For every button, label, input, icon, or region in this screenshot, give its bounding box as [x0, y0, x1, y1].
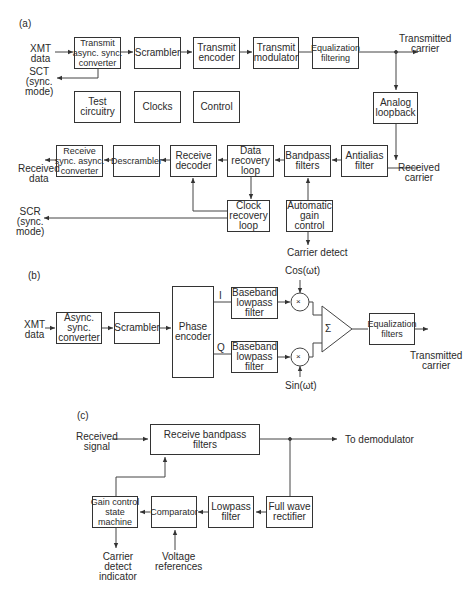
data-recovery-loop-block: Data recovery loop: [227, 145, 274, 177]
scr-label: SCR (sync. mode): [16, 207, 44, 237]
baseband-lowpass-filter-i-block: Baseband lowpass filter: [231, 287, 278, 319]
async-sync-converter-block: Async. sync. converter: [56, 312, 102, 344]
scrambler-block: Scrambler: [134, 37, 181, 69]
multiplier-q-icon: ×: [296, 352, 301, 362]
baseband-lowpass-filter-q-block: Baseband lowpass filter: [231, 341, 278, 373]
clock-recovery-loop-block: Clock recovery loop: [227, 200, 270, 232]
scrambler-block-b: Scrambler: [114, 312, 160, 344]
receive-decoder-block: Receive decoder: [170, 145, 217, 177]
lowpass-filter-block: Lowpass filter: [208, 496, 254, 528]
cos-label: Cos(ωt): [285, 266, 320, 276]
receive-bandpass-filters-block: Receive bandpass filters: [150, 424, 260, 455]
antialias-filter-block: Antialias filter: [341, 145, 388, 177]
sin-label: Sin(ωt): [285, 381, 317, 391]
to-demodulator-label: To demodulator: [345, 435, 414, 445]
test-circuitry-block: Test circuitry: [74, 91, 121, 123]
xmt-data-label-b: XMT data: [24, 320, 45, 340]
q-label: Q: [217, 343, 225, 353]
control-block: Control: [193, 91, 240, 123]
bandpass-filters-block: Bandpass filters: [284, 145, 331, 177]
receive-sync-async-converter-block: Receive sync. async. converter: [56, 145, 103, 177]
section-b-label: (b): [28, 270, 40, 281]
transmit-encoder-block: Transmit encoder: [193, 37, 240, 69]
section-a-label: (a): [19, 18, 31, 29]
comparator-block: Comparator: [151, 496, 197, 528]
phase-encoder-block: Phase encoder: [172, 286, 214, 378]
transmit-async-sync-converter-block: Transmit async. sync. converter: [74, 37, 121, 69]
multiplier-i-icon: ×: [296, 297, 301, 307]
carrier-detect-label: Carrier detect: [287, 248, 348, 258]
section-c-label: (c): [77, 410, 89, 421]
summer-icon: Σ: [325, 324, 331, 334]
analog-loopback-block: Analog loopback: [373, 92, 418, 124]
equalization-filters-block: Equalization filters: [369, 313, 415, 345]
transmitted-carrier-label-b: Transmitted carrier: [410, 351, 462, 371]
received-carrier-label: Received carrier: [398, 163, 440, 183]
sct-label: SCT (sync. mode): [25, 67, 53, 97]
carrier-detect-indicator-label: Carrier detect indicator: [99, 552, 137, 582]
xmt-data-label: XMT data: [30, 44, 51, 64]
clocks-block: Clocks: [134, 91, 181, 123]
equalization-filtering-block: Equalization filtering: [312, 37, 359, 69]
transmitted-carrier-label: Transmitted carrier: [399, 34, 451, 54]
received-signal-label: Received signal: [76, 432, 118, 452]
full-wave-rectifier-block: Full wave rectifier: [266, 496, 313, 528]
voltage-references-label: Voltage references: [155, 552, 202, 572]
automatic-gain-control-block: Automatic gain control: [286, 200, 333, 232]
gain-control-state-machine-block: Gain control state machine: [92, 496, 138, 528]
received-data-label: Received data: [18, 164, 60, 184]
transmit-modulator-block: Transmit modulator: [253, 37, 299, 69]
i-label: I: [219, 291, 222, 301]
descrambler-block: Descrambler: [113, 145, 160, 177]
